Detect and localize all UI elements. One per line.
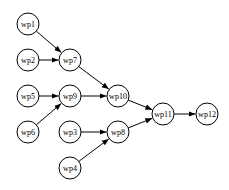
edge-wp4-to-wp8 [79, 139, 109, 162]
arrow-icon [36, 31, 61, 52]
edge-wp6-to-wp9 [36, 103, 61, 124]
node-label: wp7 [63, 56, 77, 65]
node-wp11[interactable]: wp11 [152, 103, 174, 125]
workpackage-graph: wp1wp2wp7wp5wp9wp10wp6wp3wp8wp4wp11wp12 [0, 0, 229, 190]
arrow-icon [128, 118, 152, 128]
node-wp5[interactable]: wp5 [17, 85, 39, 107]
node-label: wp11 [154, 110, 171, 119]
edge-wp7-to-wp10 [79, 67, 109, 90]
node-label: wp12 [198, 110, 216, 119]
node-wp10[interactable]: wp10 [107, 85, 129, 107]
edge-wp10-to-wp11 [128, 100, 152, 110]
node-label: wp2 [21, 56, 35, 65]
node-label: wp5 [21, 92, 35, 101]
node-label: wp4 [63, 164, 77, 173]
node-label: wp10 [109, 92, 127, 101]
node-wp3[interactable]: wp3 [59, 121, 81, 143]
arrow-icon [79, 139, 109, 162]
node-wp2[interactable]: wp2 [17, 49, 39, 71]
node-label: wp9 [63, 92, 77, 101]
node-wp4[interactable]: wp4 [59, 157, 81, 179]
node-label: wp8 [111, 128, 125, 137]
node-wp12[interactable]: wp12 [196, 103, 218, 125]
arrow-icon [36, 103, 61, 124]
node-label: wp6 [21, 128, 35, 137]
node-wp6[interactable]: wp6 [17, 121, 39, 143]
node-label: wp1 [21, 20, 35, 29]
arrow-icon [128, 100, 152, 110]
edge-wp1-to-wp7 [36, 31, 61, 52]
node-wp1[interactable]: wp1 [17, 13, 39, 35]
node-wp9[interactable]: wp9 [59, 85, 81, 107]
arrow-icon [79, 67, 109, 90]
node-wp7[interactable]: wp7 [59, 49, 81, 71]
node-label: wp3 [63, 128, 77, 137]
node-wp8[interactable]: wp8 [107, 121, 129, 143]
edge-wp8-to-wp11 [128, 118, 152, 128]
